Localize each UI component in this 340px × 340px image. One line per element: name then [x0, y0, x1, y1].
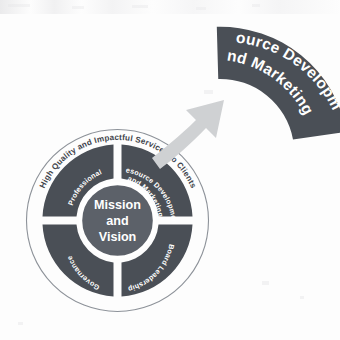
callout-enlarged-segment[interactable]: Resource Development and Marketing [0, 0, 340, 340]
diagram-canvas: Professional Leadership Resource Develop… [0, 0, 340, 340]
callout-label-line2: and Marketing [0, 0, 318, 149]
